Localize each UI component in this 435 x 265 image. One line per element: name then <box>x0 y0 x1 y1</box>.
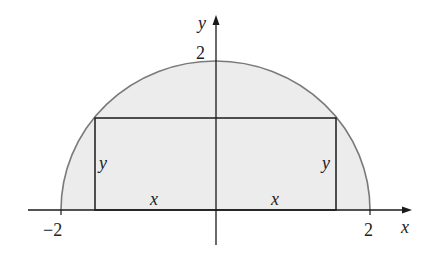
rect-left-height-label: y <box>97 153 107 173</box>
y-axis-arrow-icon <box>213 15 220 25</box>
x-axis-label: x <box>400 217 409 237</box>
semicircle-rectangle-diagram: y x 2 −2 2 y y x x <box>0 0 435 265</box>
rect-left-halfwidth-label: x <box>149 189 158 209</box>
rect-right-height-label: y <box>320 153 330 173</box>
x-tick-label-neg2: −2 <box>43 220 62 240</box>
y-axis-label: y <box>196 13 206 33</box>
rect-right-halfwidth-label: x <box>270 189 279 209</box>
y-tick-label-2: 2 <box>196 43 205 63</box>
x-axis-arrow-icon <box>402 207 412 214</box>
x-tick-label-2: 2 <box>364 220 373 240</box>
